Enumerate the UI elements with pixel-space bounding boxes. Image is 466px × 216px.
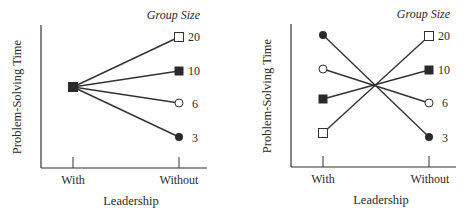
series-label-10: 10 bbox=[188, 64, 200, 78]
filled-square-marker bbox=[425, 66, 434, 75]
x-tick-without: Without bbox=[160, 173, 200, 187]
figure: Group Size 20 10 6 3 With Without Leader… bbox=[0, 0, 466, 216]
y-axis-label: Problem-Solving Time bbox=[260, 38, 274, 153]
filled-circle-marker bbox=[425, 133, 433, 141]
series-label-20: 20 bbox=[188, 30, 200, 44]
filled-circle-marker bbox=[319, 31, 327, 39]
open-circle-marker bbox=[425, 99, 433, 107]
legend-title: Group Size bbox=[147, 8, 201, 22]
series-label-6: 6 bbox=[192, 97, 198, 111]
series-label-10: 10 bbox=[438, 63, 450, 77]
x-axis-label: Leadership bbox=[353, 193, 409, 207]
filled-square-marker bbox=[175, 67, 184, 76]
x-tick-with: With bbox=[61, 173, 85, 187]
left-chart: Group Size 20 10 6 3 With Without Leader… bbox=[10, 8, 207, 208]
x-axis-label: Leadership bbox=[103, 194, 159, 208]
x-tick-with: With bbox=[311, 172, 335, 186]
open-square-marker bbox=[319, 129, 328, 138]
y-axis-label: Problem-Solving Time bbox=[10, 39, 24, 154]
open-square-marker bbox=[175, 33, 184, 42]
open-circle-marker bbox=[319, 65, 327, 73]
x-tick-without: Without bbox=[411, 172, 451, 186]
filled-circle-marker bbox=[175, 133, 183, 141]
filled-square-marker bbox=[68, 82, 78, 92]
right-chart: Group Size 20 10 6 3 With Without Leader… bbox=[260, 7, 456, 207]
series-lines bbox=[323, 35, 429, 137]
series-label-3: 3 bbox=[442, 131, 448, 145]
open-square-marker bbox=[425, 32, 434, 41]
series-lines bbox=[73, 37, 179, 137]
open-circle-marker bbox=[175, 99, 183, 107]
series-label-3: 3 bbox=[192, 131, 198, 145]
legend-title: Group Size bbox=[397, 7, 451, 21]
series-label-20: 20 bbox=[438, 29, 450, 43]
filled-square-marker bbox=[319, 95, 328, 104]
series-label-6: 6 bbox=[442, 96, 448, 110]
